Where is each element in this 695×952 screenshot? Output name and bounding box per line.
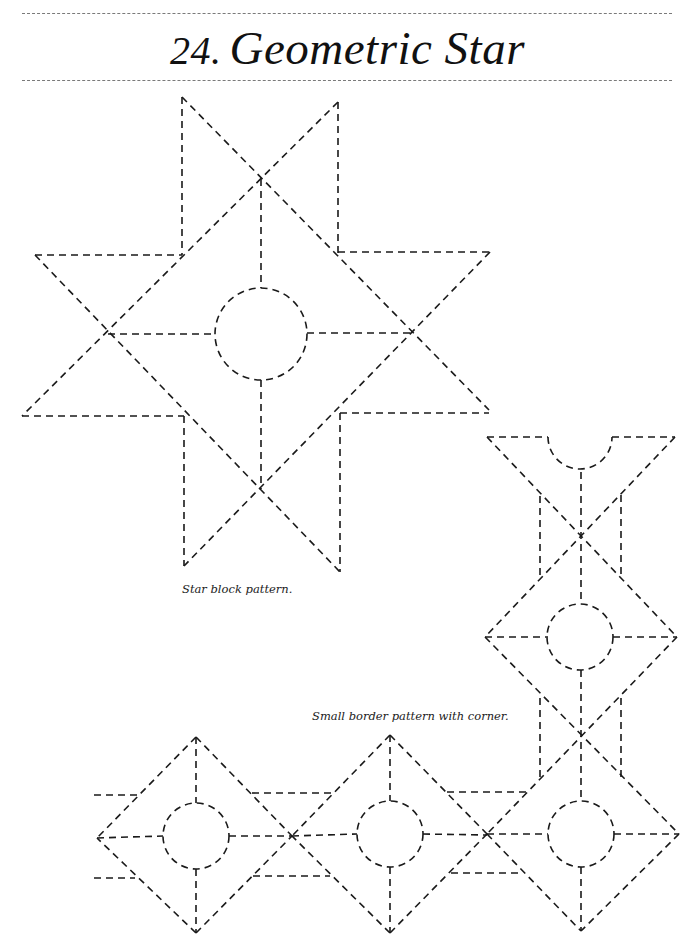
dashed-line xyxy=(196,737,292,836)
dashed-line xyxy=(423,834,487,835)
dashed-circle xyxy=(163,803,229,869)
dashed-circle xyxy=(357,801,423,867)
dashed-line xyxy=(97,838,196,933)
dashed-line xyxy=(292,735,390,836)
dashed-circle xyxy=(547,604,613,670)
dashed-line xyxy=(292,836,390,933)
dashed-line xyxy=(581,834,679,931)
star-block-pattern xyxy=(22,97,490,572)
dashed-line xyxy=(292,834,357,836)
border-caption: Small border pattern with corner. xyxy=(312,709,509,723)
dashed-circle xyxy=(215,288,307,380)
dashed-line xyxy=(487,437,677,637)
pattern-drawing xyxy=(0,0,695,952)
dashed-line xyxy=(97,737,196,838)
border-pattern-with-corner xyxy=(94,437,679,933)
star-block-caption: Star block pattern. xyxy=(182,582,292,596)
dashed-line xyxy=(196,836,292,933)
dashed-arc xyxy=(548,437,612,469)
dashed-line xyxy=(485,437,675,637)
dashed-line xyxy=(390,735,487,834)
dashed-line xyxy=(97,836,163,838)
dashed-line xyxy=(487,637,677,834)
dashed-line xyxy=(182,97,489,410)
dashed-line xyxy=(487,834,581,931)
dashed-circle xyxy=(548,801,614,867)
dashed-line xyxy=(390,834,487,933)
